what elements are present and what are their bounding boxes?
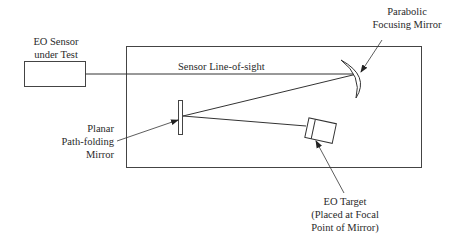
eo-target-icon — [305, 118, 337, 143]
parabolic-mirror-icon — [341, 60, 361, 98]
eo-sensor-box — [25, 62, 86, 87]
parabolic-label-line-2: Focusing Mirror — [372, 18, 442, 31]
planar-mirror-icon — [179, 101, 183, 135]
target-label-line-2: (Placed at Focal — [305, 208, 385, 221]
target-label: EO Target (Placed at Focal Point of Mirr… — [305, 195, 385, 234]
sensor-label: EO Sensor under Test — [28, 35, 84, 61]
planar-label-line-3: Mirror — [50, 148, 114, 161]
sensor-label-line-1: EO Sensor — [28, 35, 84, 48]
parabolic-label-line-1: Parabolic — [372, 5, 442, 18]
target-label-line-3: Point of Mirror) — [305, 221, 385, 234]
sensor-label-line-2: under Test — [28, 48, 84, 61]
collimator-enclosure — [127, 47, 422, 168]
target-label-line-1: EO Target — [305, 195, 385, 208]
ray-planar-to-target — [183, 116, 306, 126]
parabolic-mirror-leader — [361, 40, 382, 72]
line-of-sight-label: Sensor Line-of-sight — [178, 60, 265, 73]
planar-mirror-label: Planar Path-folding Mirror — [50, 122, 114, 161]
planar-label-line-1: Planar — [50, 122, 114, 135]
ray-parabolic-to-planar — [183, 74, 357, 116]
planar-label-line-2: Path-folding — [50, 135, 114, 148]
parabolic-mirror-label: Parabolic Focusing Mirror — [372, 5, 442, 31]
